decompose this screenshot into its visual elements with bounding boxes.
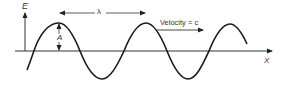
e-axis-label: E	[22, 2, 28, 11]
velocity-label: Velocity = c	[160, 19, 198, 27]
wavelength-label: λ	[97, 8, 101, 16]
x-axis-label: X	[264, 57, 269, 65]
wave-diagram	[0, 0, 285, 85]
amplitude-label: A	[56, 34, 63, 42]
